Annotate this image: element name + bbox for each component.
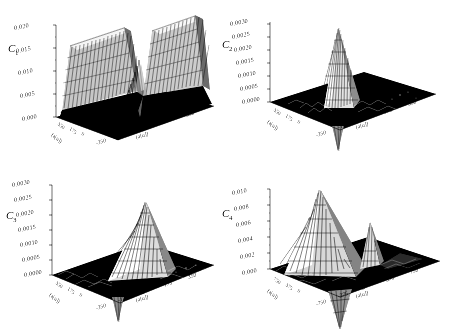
surface-canvas-c3: [0, 165, 228, 331]
z-axis-label-c3: C3: [6, 209, 16, 224]
z-axis-ticks: [53, 25, 56, 117]
surface-canvas-c4: [228, 165, 456, 331]
figure-four-surface-plots: C1 0.020 0.015 0.010 0.005 0.000 350 175…: [0, 0, 456, 331]
z-axis-ticks: [267, 24, 270, 102]
surface-plot-panel-c2: C2 0.0030 0.0025 0.0020 0.0015 0.0010 0.…: [228, 0, 456, 166]
z-axis-ticks: [49, 185, 52, 275]
surface-plot-panel-c3: C3 0.0030 0.0025 0.0020 0.0015 0.0010 0.…: [0, 165, 228, 331]
surface-plot-panel-c4: C4 0.010 0.008 0.006 0.004 0.002 0.000 7…: [228, 165, 456, 331]
z-axis-label-c2: C2: [222, 38, 232, 53]
surface-canvas-c1: [0, 0, 228, 166]
z-axis-label-c4: C4: [222, 207, 232, 222]
surface-plot-panel-c1: C1 0.020 0.015 0.010 0.005 0.000 350 175…: [0, 0, 228, 166]
surface-canvas-c2: [228, 0, 456, 166]
